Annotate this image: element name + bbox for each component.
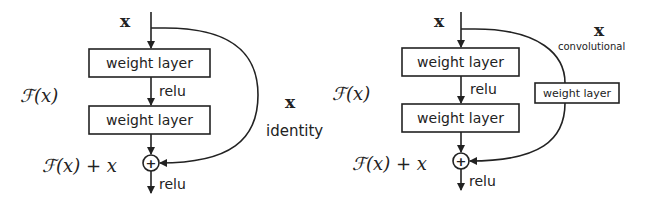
shortcut-label: x [285, 92, 296, 112]
shortcut-weight-layer-label: weight layer [543, 87, 612, 100]
residual-blocks-figure: x weight layer relu weight layer + relu … [0, 0, 648, 201]
convolutional-block: x weight layer relu weight layer + relu … [332, 11, 625, 190]
weight-layer-1-label: weight layer [106, 55, 193, 71]
weight-layer-2-label: weight layer [417, 110, 504, 126]
relu-label: relu [470, 81, 497, 97]
shortcut-label: x [594, 20, 605, 40]
shortcut-type-label: convolutional [558, 41, 625, 52]
plus-sign: + [146, 156, 157, 171]
sum-label: ℱ(x) + x [42, 155, 117, 176]
out-relu-label: relu [469, 173, 496, 189]
weight-layer-2-label: weight layer [106, 112, 193, 128]
input-label: x [434, 11, 445, 31]
sum-label: ℱ(x) + x [352, 153, 427, 174]
weight-layer-1-label: weight layer [417, 54, 504, 70]
shortcut-type-label: identity [266, 122, 323, 140]
residual-function-label: ℱ(x) [332, 83, 370, 104]
plus-sign: + [456, 154, 467, 169]
input-label: x [120, 11, 131, 31]
residual-function-label: ℱ(x) [20, 85, 58, 106]
out-relu-label: relu [159, 176, 186, 192]
relu-label: relu [159, 83, 186, 99]
identity-block: x weight layer relu weight layer + relu … [20, 11, 323, 193]
